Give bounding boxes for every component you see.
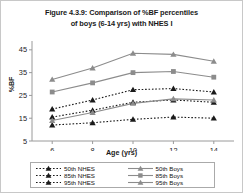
legend-solid-line-icon <box>127 172 154 179</box>
data-point-marker <box>211 75 216 80</box>
data-point-marker <box>211 89 217 94</box>
legend-item[interactable]: 95th Boys <box>127 179 215 186</box>
data-point-marker <box>131 70 136 75</box>
legend-dotted-triangle-icon <box>35 165 62 172</box>
data-point-marker <box>211 115 217 120</box>
legend-label: 95th Boys <box>154 179 184 186</box>
legend-column-nhes: 50th NHES85th NHES95th NHES <box>31 163 123 187</box>
legend-item[interactable]: 50th Boys <box>127 165 215 172</box>
data-point-marker <box>171 69 176 74</box>
legend-label: 50th NHES <box>62 165 95 172</box>
legend-label: 85th Boys <box>154 172 184 179</box>
legend-item[interactable]: 85th Boys <box>127 172 215 179</box>
data-point-marker <box>50 90 55 95</box>
y-tick-label: 5 <box>23 137 27 146</box>
legend-label: 85th NHES <box>62 172 95 179</box>
y-tick-label: 45 <box>19 45 27 54</box>
y-tick-label: 35 <box>19 68 27 77</box>
legend-solid-line-icon <box>127 165 154 172</box>
series-line <box>52 53 214 79</box>
legend-item[interactable]: 95th NHES <box>35 179 123 186</box>
y-tick-label: 15 <box>19 114 27 123</box>
data-point-marker <box>90 80 95 85</box>
legend-label: 95th NHES <box>62 179 95 186</box>
legend-item[interactable]: 50th NHES <box>35 165 123 172</box>
y-axis-label: %BF <box>8 70 15 100</box>
data-point-marker <box>170 86 176 91</box>
legend-dotted-triangle-icon <box>35 172 62 179</box>
legend-label: 50th Boys <box>154 165 184 172</box>
plot-area: 51525354568101214 <box>1 1 244 151</box>
legend-item[interactable]: 85th NHES <box>35 172 123 179</box>
legend-column-boys: 50th Boys85th Boys95th Boys <box>123 163 215 187</box>
legend-dotted-triangle-icon <box>35 179 62 186</box>
y-tick-label: 25 <box>19 91 27 100</box>
chart-container: Figure 4.3.9: Comparison of %BF percenti… <box>0 0 243 193</box>
data-point-marker <box>90 97 96 102</box>
x-axis-label: Age (yrs) <box>1 148 242 157</box>
legend-solid-line-icon <box>127 179 154 186</box>
chart-legend: 50th NHES85th NHES95th NHES 50th Boys85t… <box>30 162 215 188</box>
data-point-marker <box>49 106 55 111</box>
